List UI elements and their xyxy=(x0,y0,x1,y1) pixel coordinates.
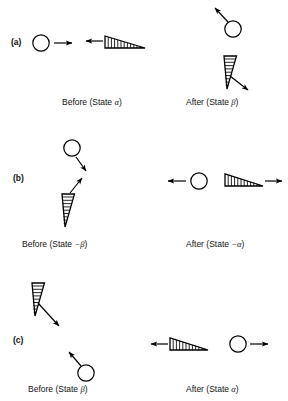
panel-label-a: (a) xyxy=(11,38,21,47)
caption-b-after-symbol: −α xyxy=(231,239,241,249)
caption-a-before-prefix: Before (State xyxy=(62,97,114,107)
caption-a-before-suffix: ) xyxy=(119,97,122,107)
panel-c-before-wedge xyxy=(29,283,59,326)
caption-a-before: Before (State α) xyxy=(62,98,122,107)
caption-c-before-suffix: ) xyxy=(85,384,88,394)
figure-canvas: (a) Before (State α) After (State β) (b)… xyxy=(0,0,288,401)
caption-c-after-prefix: After (State xyxy=(186,384,231,394)
caption-c-after-suffix: ) xyxy=(236,384,239,394)
caption-b-before-prefix: Before (State xyxy=(22,239,74,249)
panel-b-after-wedge xyxy=(225,172,282,188)
caption-b-after-suffix: ) xyxy=(242,239,245,249)
caption-b-after-prefix: After (State xyxy=(186,239,231,249)
caption-b-before: Before (State −β) xyxy=(22,240,87,249)
panel-c-after-wedge xyxy=(151,336,208,352)
panel-a-after-wedge xyxy=(221,56,248,90)
panel-b-before-ball xyxy=(64,140,86,171)
panel-b-after-ball xyxy=(168,173,207,189)
panel-b-before-wedge xyxy=(59,178,82,227)
caption-b-after: After (State −α) xyxy=(186,240,244,249)
caption-a-after-prefix: After (State xyxy=(186,97,231,107)
panel-label-c: (c) xyxy=(13,336,23,345)
caption-c-before-prefix: Before (State xyxy=(28,384,80,394)
caption-b-before-symbol: −β xyxy=(74,239,84,249)
caption-c-before: Before (State β) xyxy=(28,385,88,394)
diagram-graphics xyxy=(0,0,288,401)
panel-label-b: (b) xyxy=(13,174,24,183)
caption-b-before-suffix: ) xyxy=(84,239,87,249)
panel-a-before-wedge xyxy=(86,34,145,50)
caption-c-after: After (State α) xyxy=(186,385,239,394)
panel-a-before-ball xyxy=(33,35,72,51)
caption-a-after-suffix: ) xyxy=(236,97,239,107)
panel-c-before-ball xyxy=(69,352,94,381)
panel-a-after-ball xyxy=(215,8,241,37)
panel-c-after-ball xyxy=(230,336,268,352)
caption-a-after: After (State β) xyxy=(186,98,238,107)
